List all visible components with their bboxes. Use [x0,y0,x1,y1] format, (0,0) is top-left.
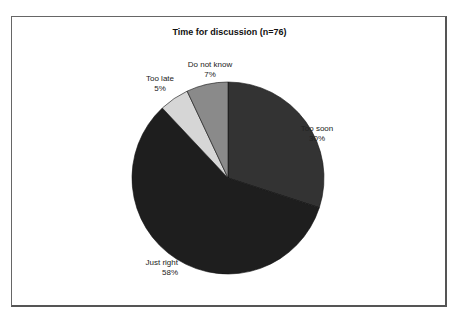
label-just-right-pct: 58% [118,268,178,278]
label-do-not-know-name: Do not know [180,60,240,70]
label-too-soon-name: Too soon [287,124,347,134]
label-too-soon-pct: 30% [287,134,347,144]
label-do-not-know-pct: 7% [180,70,240,80]
label-too-late-pct: 5% [140,84,180,94]
label-just-right-name: Just right [118,258,178,268]
label-too-soon: Too soon 30% [287,124,347,144]
label-too-late: Too late 5% [140,74,180,94]
label-too-late-name: Too late [140,74,180,84]
pie-chart [0,0,459,320]
label-do-not-know: Do not know 7% [180,60,240,80]
label-just-right: Just right 58% [118,258,178,278]
